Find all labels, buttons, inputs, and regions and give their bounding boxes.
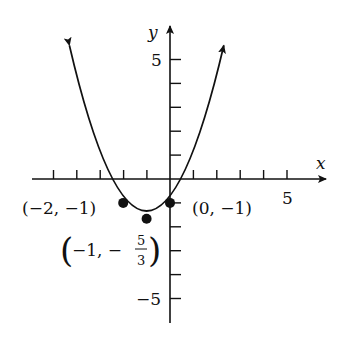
point-label-neg2-neg1: (−2, −1) [22, 198, 96, 218]
vertex-frac-den: 3 [137, 253, 145, 268]
parabola-curve [69, 45, 223, 211]
x-axis-label: x [316, 153, 326, 173]
point-label-0-neg1: (0, −1) [192, 198, 252, 218]
point-vertex [142, 214, 152, 224]
point-0-neg1 [165, 198, 175, 208]
vertex-label-prefix: −1, − [72, 240, 122, 260]
x-tick-label-5: 5 [282, 188, 293, 208]
point-label-vertex: ( −1, − 5 3 ) [60, 230, 161, 270]
y-tick-label-neg5: −5 [136, 289, 161, 309]
graph-canvas: x y 5 5 −5 (−2, −1) (0, −1) ( −1, − 5 3 … [0, 0, 344, 349]
svg-text:): ) [148, 230, 161, 270]
y-axis-label: y [147, 22, 158, 42]
y-tick-label-5: 5 [151, 50, 162, 70]
vertex-frac-num: 5 [137, 233, 145, 248]
point-neg2-neg1 [118, 198, 128, 208]
